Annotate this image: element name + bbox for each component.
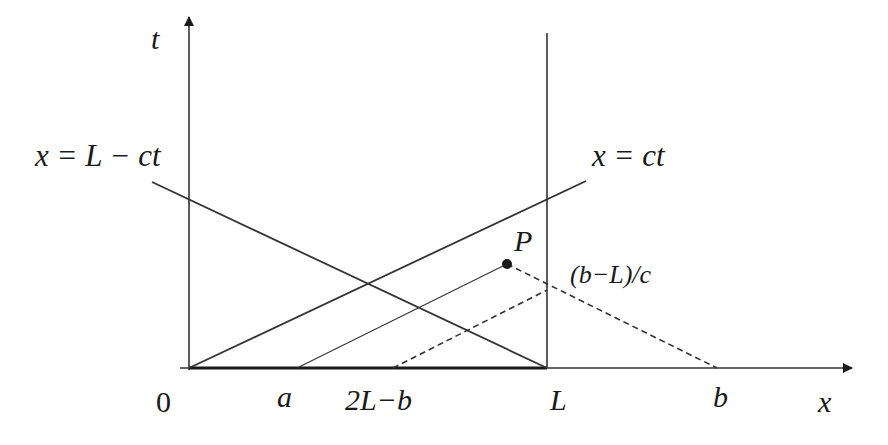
right-characteristic-label: x = ct xyxy=(592,140,665,171)
characteristic-a-to-P xyxy=(297,264,507,368)
x-axis-label: x xyxy=(818,387,831,417)
left-characteristic-label: x = L − ct xyxy=(35,140,161,171)
reflection-time-label: (b−L)/c xyxy=(570,262,651,288)
tick-origin: 0 xyxy=(156,387,171,417)
characteristic-left xyxy=(152,182,547,368)
tick-a: a xyxy=(277,382,292,412)
characteristics-diagram: t x x = L − ct x = ct P (b−L)/c 0 a 2L−b… xyxy=(0,0,888,445)
t-axis-label: t xyxy=(151,24,159,54)
diagram-graphics xyxy=(0,0,888,445)
point-P xyxy=(502,259,512,269)
tick-L: L xyxy=(550,385,567,415)
tick-b: b xyxy=(713,382,728,412)
tick-2L-minus-b: 2L−b xyxy=(345,385,412,415)
point-P-label: P xyxy=(514,226,532,256)
